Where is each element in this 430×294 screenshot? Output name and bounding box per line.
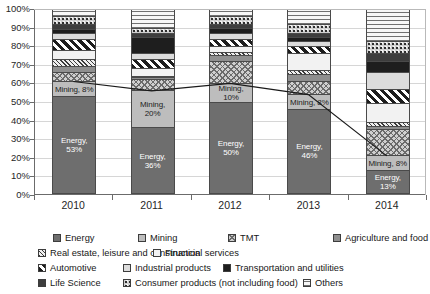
bar-segment[interactable] xyxy=(131,68,175,75)
bar-segment[interactable] xyxy=(366,122,410,126)
bar-segment[interactable] xyxy=(366,53,410,60)
legend-item[interactable]: Life Science xyxy=(38,276,101,289)
legend-item[interactable]: Automotive xyxy=(38,261,97,274)
y-axis-tick-label: 0% xyxy=(0,189,30,200)
bar-segment[interactable] xyxy=(131,33,175,37)
bar-segment[interactable] xyxy=(287,46,331,53)
bar-segment[interactable] xyxy=(209,33,253,39)
bar-2010[interactable]: Energy, 53%Mining, 8% xyxy=(52,9,96,194)
bar-segment[interactable] xyxy=(131,9,175,28)
bar-segment[interactable] xyxy=(287,9,331,24)
bar-segment[interactable] xyxy=(131,28,175,34)
bar-segment[interactable] xyxy=(131,37,175,54)
bar-segment[interactable] xyxy=(52,29,96,33)
bar-2012[interactable]: Energy, 50%Mining, 10% xyxy=(209,9,253,194)
bar-segment[interactable] xyxy=(209,52,253,56)
bar-segment[interactable]: Energy, 50% xyxy=(209,102,253,195)
bar-segment[interactable] xyxy=(52,9,96,16)
bar-segment[interactable] xyxy=(287,70,331,74)
bar-segment[interactable] xyxy=(209,16,253,23)
bar-segment[interactable] xyxy=(52,50,96,59)
bar-segment[interactable] xyxy=(52,33,96,39)
legend-label: Automotive xyxy=(50,263,97,273)
bar-segment[interactable] xyxy=(209,55,253,61)
bar-segment[interactable] xyxy=(366,126,410,130)
bar-segment[interactable] xyxy=(52,16,96,23)
bar-segment[interactable]: Mining, 8% xyxy=(287,94,331,109)
bar-segment[interactable] xyxy=(287,37,331,41)
legend-label: Transportation and utilities xyxy=(235,263,344,273)
bar-segment[interactable] xyxy=(366,72,410,89)
bar-segment[interactable]: Energy, 36% xyxy=(131,127,175,194)
bar-segment[interactable] xyxy=(287,24,331,33)
legend-item[interactable]: Mining xyxy=(138,231,177,244)
segment-data-label: Energy, 46% xyxy=(288,142,330,160)
bar-segment[interactable] xyxy=(52,72,96,81)
bar-segment[interactable] xyxy=(131,79,175,90)
bar-2013[interactable]: Energy, 46%Mining, 8% xyxy=(287,9,331,194)
x-axis-tick-label-2014: 2014 xyxy=(352,199,422,211)
legend-item[interactable]: Consumer products (not including food) xyxy=(123,276,298,289)
legend-label: Others xyxy=(315,278,343,288)
bar-segment[interactable] xyxy=(131,53,175,59)
bar-segment[interactable]: Mining, 8% xyxy=(366,155,410,170)
y-axis-tick-label: 10% xyxy=(0,170,30,181)
bar-segment[interactable] xyxy=(52,59,96,66)
x-axis-tick-label-2011: 2011 xyxy=(117,199,187,211)
bar-segment[interactable] xyxy=(366,61,410,72)
bar-segment[interactable] xyxy=(209,61,253,83)
bar-segment[interactable] xyxy=(52,24,96,30)
legend-item[interactable]: Industrial products xyxy=(123,261,211,274)
bar-segment[interactable] xyxy=(52,66,96,72)
legend-item[interactable]: Financial services xyxy=(153,246,239,259)
y-axis-tick-label: 90% xyxy=(0,22,30,33)
bar-segment[interactable] xyxy=(131,77,175,79)
y-axis-tick-label: 100% xyxy=(0,3,30,14)
x-axis-tick-label-2013: 2013 xyxy=(273,199,343,211)
bar-segment[interactable] xyxy=(287,81,331,94)
bar-segment[interactable] xyxy=(131,59,175,68)
bar-2014[interactable]: Energy, 13%Mining, 8% xyxy=(366,9,410,194)
legend-swatch-icon xyxy=(303,279,311,287)
bar-segment[interactable]: Mining, 10% xyxy=(209,83,253,102)
legend-label: Agriculture and food xyxy=(345,233,428,243)
legend-item[interactable]: Energy xyxy=(53,231,94,244)
bar-segment[interactable] xyxy=(287,41,331,47)
plot-area: Energy, 53%Mining, 8%Energy, 36%Mining, … xyxy=(34,9,426,195)
legend-swatch-icon xyxy=(333,234,341,242)
segment-data-label: Mining, 20% xyxy=(132,100,174,118)
bar-segment[interactable] xyxy=(287,53,331,70)
bar-segment[interactable] xyxy=(366,89,410,104)
bar-segment[interactable] xyxy=(366,9,410,40)
bar-segment[interactable] xyxy=(366,129,410,155)
bar-segment[interactable] xyxy=(209,9,253,16)
y-axis-tick-label: 30% xyxy=(0,133,30,144)
bar-segment[interactable] xyxy=(287,74,331,81)
bar-segment[interactable] xyxy=(209,46,253,52)
x-axis-tick-mark xyxy=(348,195,349,200)
bar-segment[interactable] xyxy=(209,28,253,34)
bar-segment[interactable]: Energy, 53% xyxy=(52,96,96,194)
bar-segment[interactable]: Mining, 8% xyxy=(52,81,96,96)
legend-item[interactable]: TMT xyxy=(228,231,259,244)
segment-data-label: Mining, 8% xyxy=(53,85,95,94)
bar-segment[interactable]: Energy, 13% xyxy=(366,170,410,194)
legend-item[interactable]: Transportation and utilities xyxy=(223,261,344,274)
bar-segment[interactable] xyxy=(209,24,253,28)
bar-segment[interactable] xyxy=(366,41,410,54)
segment-data-label: Mining, 10% xyxy=(210,84,252,102)
legend-label: TMT xyxy=(240,233,259,243)
legend-item[interactable]: Agriculture and food xyxy=(333,231,428,244)
bar-2011[interactable]: Energy, 36%Mining, 20% xyxy=(131,9,175,194)
bar-segment[interactable] xyxy=(52,39,96,50)
bar-segment[interactable] xyxy=(287,33,331,37)
bar-segment[interactable]: Mining, 20% xyxy=(131,90,175,127)
bar-segment[interactable] xyxy=(209,39,253,46)
legend-item[interactable]: Others xyxy=(303,276,343,289)
x-axis-tick-mark xyxy=(269,195,270,200)
bar-segment[interactable] xyxy=(366,103,410,122)
legend-label: Mining xyxy=(150,233,177,243)
bar-segment[interactable] xyxy=(131,76,175,78)
x-axis-tick-mark xyxy=(426,195,427,200)
bar-segment[interactable]: Energy, 46% xyxy=(287,109,331,194)
